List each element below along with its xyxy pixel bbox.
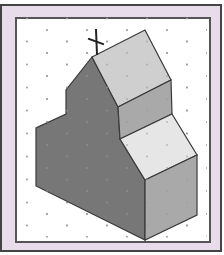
isometric-building-drawing: [0, 0, 224, 255]
dot-grid-overlay: [36, 30, 198, 240]
